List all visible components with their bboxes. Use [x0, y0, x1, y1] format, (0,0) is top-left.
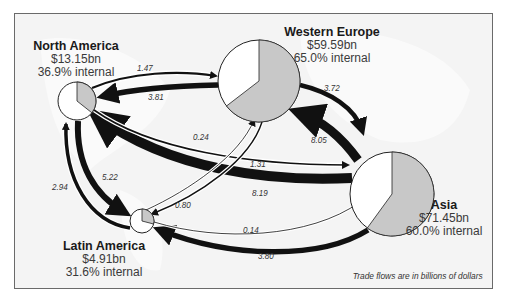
pie-latin-america: [130, 209, 154, 233]
flow-value-na-to-la: 5.22: [102, 171, 118, 182]
region-label-north-america: North America $13.15bn 36.9% internal: [30, 40, 122, 79]
region-internal: 60.0% internal: [404, 225, 484, 238]
region-internal: 65.0% internal: [277, 52, 387, 65]
units-note: Trade flows are in billions of dollars: [353, 270, 483, 281]
flow-value-asia-to-na: 8.19: [252, 187, 268, 198]
flow-value-we-to-la: 0.80: [175, 199, 191, 210]
region-label-asia: Asia $71.45bn 60.0% internal: [404, 199, 484, 238]
flow-value-asia-to-we: 8.05: [311, 134, 327, 145]
flow-value-la-to-we: 0.24: [193, 131, 209, 142]
flow-value-we-to-asia: 3.72: [324, 82, 340, 93]
pie-north-america: [58, 82, 96, 120]
region-label-latin-america: Latin America $4.91bn 31.6% internal: [56, 240, 152, 279]
region-internal: 36.9% internal: [30, 66, 122, 79]
flow-value-la-to-asia: 0.14: [243, 224, 259, 235]
flow-value-la-to-na: 2.94: [52, 181, 68, 192]
flow-value-na-to-we: 1.47: [137, 62, 153, 73]
region-label-western-europe: Western Europe $59.59bn 65.0% internal: [277, 26, 387, 65]
region-internal: 31.6% internal: [56, 266, 152, 279]
flow-value-asia-to-la: 3.80: [258, 250, 274, 261]
flow-value-na-to-asia: 1.31: [250, 158, 266, 169]
flow-value-we-to-na: 3.81: [148, 91, 164, 102]
